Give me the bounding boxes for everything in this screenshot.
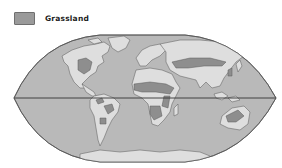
grassland-pampas: [100, 118, 106, 124]
world-map: [0, 0, 282, 168]
antarctica: [80, 150, 210, 168]
